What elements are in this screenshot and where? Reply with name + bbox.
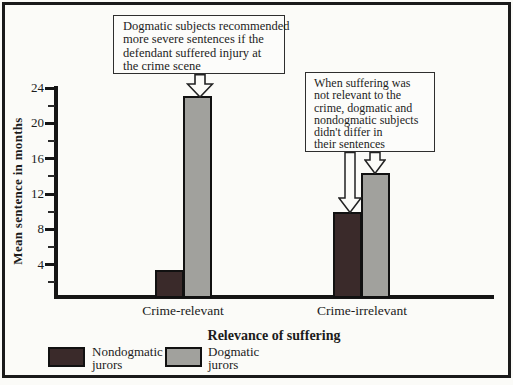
- y-tick-major: [45, 228, 55, 231]
- y-tick-minor: [48, 140, 55, 142]
- y-tick-label: 8: [18, 222, 44, 236]
- y-tick-label: 4: [18, 258, 44, 272]
- legend-swatch-nondogmatic: [48, 347, 85, 367]
- down-arrow-long-icon: [338, 152, 362, 214]
- callout-line: not relevant to the: [314, 89, 430, 101]
- callout-line: the crime scene: [123, 60, 278, 73]
- category-label-crime-relevant: Crime-relevant: [123, 303, 243, 319]
- callout-box-crime-irrelevant: When suffering was not relevant to the c…: [305, 72, 435, 152]
- callout-line: Dogmatic subjects recommended: [123, 20, 278, 33]
- callout-line: defendant suffered injury at: [123, 47, 278, 60]
- category-label-crime-irrelevant: Crime-irrelevant: [302, 303, 422, 319]
- y-tick-label: 16: [18, 152, 44, 166]
- y-tick-major: [45, 122, 55, 125]
- legend-label-line: jurors: [208, 359, 259, 372]
- bar-dogmatic-crime-irrelevant: [361, 173, 390, 298]
- bar-nondogmatic-crime-relevant: [155, 270, 184, 298]
- down-arrow-icon: [186, 74, 214, 98]
- legend-label-dogmatic: Dogmatic jurors: [208, 346, 259, 372]
- legend-label-line: jurors: [92, 359, 163, 372]
- callout-line: more severe sentences if the: [123, 33, 278, 46]
- y-tick-major: [45, 193, 55, 196]
- y-tick-minor: [48, 105, 55, 107]
- x-axis-title: Relevance of suffering: [164, 328, 384, 344]
- legend-label-nondogmatic: Nondogmatic jurors: [92, 346, 163, 372]
- legend-swatch-dogmatic: [165, 347, 202, 367]
- callout-box-crime-relevant: Dogmatic subjects recommended more sever…: [113, 15, 285, 74]
- x-axis-line: [54, 295, 494, 299]
- callout-line: their sentences: [314, 138, 430, 150]
- y-tick-minor: [48, 175, 55, 177]
- y-tick-major: [45, 87, 55, 90]
- y-tick-major: [45, 263, 55, 266]
- y-tick-label: 12: [18, 187, 44, 201]
- down-arrow-short-icon: [364, 152, 386, 174]
- bar-chart-figure: Mean sentence in months 24 20 16 12 8 4 …: [0, 0, 513, 385]
- bar-nondogmatic-crime-irrelevant: [333, 212, 362, 298]
- y-tick-major: [45, 157, 55, 160]
- y-tick-minor: [48, 281, 55, 283]
- y-tick-minor: [48, 211, 55, 213]
- y-tick-minor: [48, 246, 55, 248]
- y-tick-label: 20: [18, 116, 44, 130]
- bar-dogmatic-crime-relevant: [183, 96, 212, 298]
- y-tick-label: 24: [18, 81, 44, 95]
